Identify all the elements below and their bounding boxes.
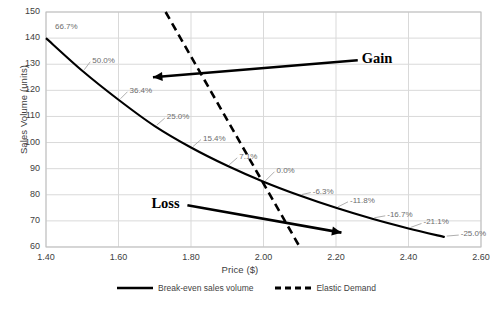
data-point-label: -11.8% (350, 196, 375, 205)
chart-legend: Break-even sales volumeElastic Demand (0, 283, 493, 293)
data-point-label: -21.1% (424, 217, 449, 226)
x-axis-title: Price ($) (180, 264, 300, 275)
series-paths (46, 12, 445, 247)
y-tick-label: 80 (12, 189, 40, 199)
series-line-0 (46, 38, 445, 237)
x-tick-label: 1.60 (99, 252, 139, 262)
legend-item-0[interactable]: Break-even sales volume (117, 283, 253, 293)
x-tick-label: 2.60 (461, 252, 493, 262)
data-point-label: 50.0% (92, 56, 115, 65)
legend-dashed-line-icon (275, 283, 311, 293)
x-tick-label: 2.40 (389, 252, 429, 262)
label-leader-line (338, 202, 348, 207)
break-even-chart: Sales Volume (units) Price ($) 150140130… (0, 0, 493, 310)
annotation-loss: Loss (151, 195, 179, 212)
y-tick-label: 90 (12, 163, 40, 173)
data-point-label: -6.3% (313, 187, 334, 196)
label-leader-line (229, 158, 237, 165)
label-leader-line (302, 193, 311, 195)
y-tick-label: 70 (12, 215, 40, 225)
legend-label: Break-even sales volume (158, 283, 253, 293)
x-tick-label: 2.00 (244, 252, 284, 262)
data-point-label: 25.0% (167, 112, 190, 121)
label-leader-line (157, 118, 165, 125)
annotation-arrow-shaft-0 (153, 60, 358, 77)
x-tick-label: 1.80 (171, 252, 211, 262)
x-tick-label: 1.40 (26, 252, 66, 262)
annotation-arrow-head-0 (153, 72, 163, 81)
series-line-1 (166, 12, 300, 247)
y-tick-label: 100 (12, 137, 40, 147)
data-point-label: 66.7% (55, 22, 78, 31)
annotation-gain: Gain (362, 50, 393, 67)
data-point-label: 0.0% (277, 166, 295, 175)
x-tick-label: 2.20 (316, 252, 356, 262)
data-point-label: 7.1% (239, 152, 257, 161)
data-point-label: -25.0% (461, 229, 486, 238)
legend-item-1[interactable]: Elastic Demand (275, 283, 376, 293)
label-leader-line (411, 223, 422, 227)
label-leader-line (84, 62, 90, 70)
label-leader-line (374, 216, 385, 218)
data-point-label: 36.4% (130, 86, 153, 95)
data-point-label: 15.4% (203, 134, 226, 143)
legend-label: Elastic Demand (316, 283, 376, 293)
y-tick-label: 140 (12, 32, 40, 42)
y-tick-label: 120 (12, 84, 40, 94)
y-tick-label: 110 (12, 110, 40, 120)
legend-solid-line-icon (117, 283, 153, 293)
y-tick-label: 130 (12, 58, 40, 68)
gridlines (46, 12, 481, 247)
label-leader-line (266, 172, 275, 181)
y-tick-label: 60 (12, 241, 40, 251)
label-leader-line (447, 235, 459, 236)
y-tick-label: 150 (12, 6, 40, 16)
data-point-label: -16.7% (387, 210, 412, 219)
label-leader-line (121, 92, 128, 99)
annotation-arrow-shaft-1 (187, 205, 341, 232)
